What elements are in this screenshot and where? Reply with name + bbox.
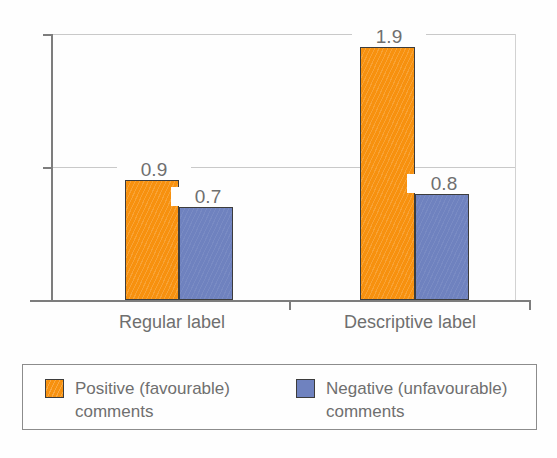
legend-label-positive-line2: comments (75, 401, 230, 424)
bar-value-regular-negative: 0.7 (171, 187, 245, 206)
x-tick-label-regular: Regular label (62, 313, 282, 333)
bar-descriptive-negative[interactable] (415, 194, 469, 300)
bar-value-descriptive-negative: 0.8 (407, 174, 481, 193)
bar-regular-negative[interactable] (179, 207, 233, 300)
y-tick-1 (43, 167, 53, 169)
x-tick-right (529, 300, 531, 310)
gridline-y2 (52, 34, 516, 35)
legend-entry-positive[interactable]: Positive (favourable) comments (45, 378, 230, 424)
legend: Positive (favourable) comments Negative … (22, 364, 537, 430)
legend-label-positive: Positive (favourable) comments (75, 378, 230, 424)
legend-label-negative: Negative (unfavourable) comments (326, 378, 507, 424)
x-tick-mid (289, 300, 291, 310)
bar-value-regular-positive: 0.9 (117, 160, 191, 179)
x-axis-line (30, 300, 530, 302)
blue-swatch-icon (296, 379, 315, 398)
plot-frame-right (515, 34, 516, 300)
plot-area: 0.9 0.7 1.9 0.8 (52, 34, 516, 300)
legend-entry-negative[interactable]: Negative (unfavourable) comments (296, 378, 507, 424)
legend-label-negative-line1: Negative (unfavourable) (326, 378, 507, 401)
bar-chart-figure: 0.9 0.7 1.9 0.8 2 1 0 Regular label Desc… (0, 0, 557, 458)
y-tick-2 (43, 34, 53, 36)
x-tick-label-descriptive: Descriptive label (300, 313, 520, 333)
legend-label-negative-line2: comments (326, 401, 507, 424)
bar-value-descriptive-positive: 1.9 (352, 27, 426, 46)
legend-label-positive-line1: Positive (favourable) (75, 378, 230, 401)
orange-swatch-icon (45, 379, 64, 398)
